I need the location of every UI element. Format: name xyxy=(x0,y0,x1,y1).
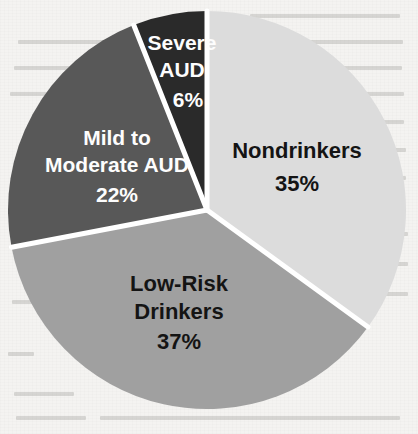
slice-label-mild-to-moderate-aud-value: 22% xyxy=(96,183,138,206)
slice-label-mild-to-moderate-aud-name-line1: Mild to xyxy=(83,126,151,149)
slice-label-severe-aud-name-line2: AUD xyxy=(159,58,205,81)
slice-label-nondrinkers-value: 35% xyxy=(275,171,319,196)
slice-label-low-risk-drinkers-name-line2: Drinkers xyxy=(134,299,223,324)
slice-label-low-risk-drinkers-value: 37% xyxy=(157,329,201,354)
slice-label-mild-to-moderate-aud-name-line2: Moderate AUD xyxy=(45,153,189,176)
slice-label-nondrinkers-name: Nondrinkers xyxy=(232,138,362,163)
pie-chart: Nondrinkers 35% Low-Risk Drinkers 37% Mi… xyxy=(0,0,418,434)
slice-label-severe-aud-name-line1: Severe xyxy=(148,31,217,54)
slice-label-severe-aud-value: 6% xyxy=(173,88,204,111)
pie-chart-svg: Nondrinkers 35% Low-Risk Drinkers 37% Mi… xyxy=(0,0,418,434)
slice-label-low-risk-drinkers-name-line1: Low-Risk xyxy=(130,271,229,296)
